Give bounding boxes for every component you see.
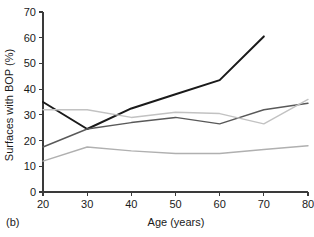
data-series-group bbox=[43, 36, 308, 161]
axes: 010203040506070 20304050607080 bbox=[24, 6, 314, 210]
y-tick-label: 30 bbox=[24, 109, 36, 121]
x-axis-ticks: 20304050607080 bbox=[37, 192, 314, 210]
x-axis-title: Age (years) bbox=[148, 216, 205, 228]
y-tick-label: 10 bbox=[24, 160, 36, 172]
x-tick-label: 60 bbox=[214, 198, 226, 210]
x-tick-label: 30 bbox=[81, 198, 93, 210]
x-tick-label: 50 bbox=[169, 198, 181, 210]
y-tick-label: 40 bbox=[24, 83, 36, 95]
y-tick-label: 70 bbox=[24, 6, 36, 18]
series-line-series-4-light-gray-lower bbox=[43, 146, 308, 161]
figure-panel-b: 010203040506070 20304050607080 Surfaces … bbox=[0, 0, 314, 237]
y-axis-title: Surfaces with BOP (%) bbox=[3, 49, 15, 161]
x-tick-label: 20 bbox=[37, 198, 49, 210]
series-line-series-3-light-gray-upper bbox=[43, 99, 308, 123]
y-axis-ticks: 010203040506070 bbox=[24, 6, 43, 198]
x-tick-label: 80 bbox=[302, 198, 314, 210]
chart-canvas: 010203040506070 20304050607080 Surfaces … bbox=[0, 0, 314, 237]
y-tick-label: 60 bbox=[24, 32, 36, 44]
y-tick-label: 0 bbox=[30, 186, 36, 198]
x-tick-label: 70 bbox=[258, 198, 270, 210]
panel-label: (b) bbox=[6, 216, 19, 228]
y-tick-label: 20 bbox=[24, 135, 36, 147]
y-tick-label: 50 bbox=[24, 57, 36, 69]
x-tick-label: 40 bbox=[125, 198, 137, 210]
